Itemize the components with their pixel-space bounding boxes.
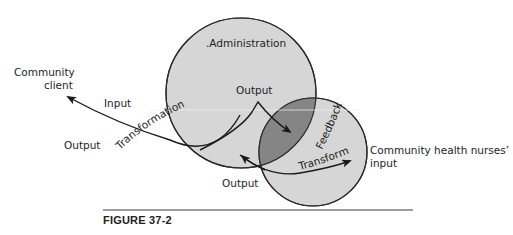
input-label: Input — [104, 97, 131, 109]
nurses-input-label-2: input — [370, 157, 397, 169]
figure-caption: FIGURE 37-2 — [103, 214, 172, 226]
output-top-label: Output — [236, 84, 272, 96]
administration-label: .Administration — [206, 37, 286, 49]
systems-diagram: .Administration Community client Input O… — [0, 0, 513, 235]
community-client-label-1: Community — [14, 66, 75, 78]
output-left-label: Output — [64, 139, 100, 151]
community-client-label-2: client — [44, 79, 73, 91]
output-bottom-label: Output — [222, 177, 258, 189]
nurses-input-label-1: Community health nurses’ — [370, 144, 509, 156]
